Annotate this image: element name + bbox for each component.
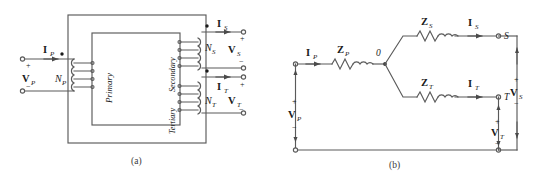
primary-voltage-label: V P + − [22,61,36,91]
svg-text:V: V [228,95,236,106]
tertiary-polarity-dot [205,69,208,72]
impedance-zs-resistor [417,31,438,41]
svg-text:V: V [510,87,518,98]
svg-text:P: P [49,50,55,58]
svg-text:S: S [212,48,216,56]
impedance-zt-resistor [417,92,438,102]
circuit-terminal-s-label: S [504,31,509,41]
svg-text:Z: Z [421,77,428,88]
secondary-minus: − [239,57,244,66]
tertiary-plus: + [240,80,245,89]
primary-minus: − [26,82,31,91]
svg-text:S: S [429,22,433,30]
svg-text:T: T [500,133,505,141]
circuit-vt-plus: + [495,117,500,126]
circuit-node-zero-label: 0 [376,48,381,58]
svg-text:I: I [217,81,221,92]
svg-text:P: P [312,53,318,61]
circuit-vt-minus: − [495,139,500,148]
circuit-vs-minus: − [514,99,519,108]
circuit-it-label: I T [468,78,480,92]
svg-text:S: S [475,23,479,31]
circuit-branch-s [385,34,501,64]
circuit-zt-label: Z T [421,77,434,91]
impedance-zp-resistor [332,59,353,69]
circuit-ip-label: I P [306,47,318,61]
tertiary-current-label: I T [217,81,229,95]
svg-text:Z: Z [337,44,344,55]
svg-text:S: S [224,24,228,32]
svg-text:I: I [217,18,221,29]
impedance-zp-inductor [353,62,373,64]
circuit-vp-plus: + [292,97,297,106]
svg-text:T: T [475,84,480,92]
secondary-polarity-dot [205,24,208,27]
svg-text:S: S [519,93,523,101]
secondary-plus: + [240,34,245,43]
primary-current-label: I P [43,44,55,58]
circuit-vs-plus: + [514,75,519,84]
primary-winding [71,59,94,91]
svg-text:Z: Z [421,16,428,27]
core-label-tertiary: Tertiary [168,108,177,134]
svg-text:T: T [212,101,217,109]
circuit-branch-t [385,64,501,99]
svg-text:I: I [43,44,47,55]
svg-text:I: I [468,78,472,89]
svg-text:V: V [491,127,499,138]
svg-text:V: V [288,109,296,120]
svg-text:I: I [468,17,472,28]
primary-polarity-dot [60,52,63,55]
circuit-vp-minus: − [292,123,297,132]
core-label-secondary: Secondary [168,57,177,92]
tertiary-voltage-label: V T + − [228,80,245,114]
svg-text:I: I [306,47,310,58]
svg-text:P: P [30,79,36,87]
secondary-winding [178,38,201,70]
primary-turns-label: N P [54,73,67,87]
circuit-vs-label: V S + − [510,75,523,108]
tertiary-minus: − [239,105,244,114]
primary-plus: + [26,61,31,70]
tertiary-winding [178,82,201,114]
caption-b: (b) [389,160,400,171]
svg-text:P: P [296,115,302,123]
caption-a: (a) [131,156,142,167]
circuit-vp-label: V P + − [288,97,302,132]
svg-text:T: T [224,87,229,95]
svg-text:P: P [344,50,350,58]
circuit-is-label: I S [468,17,479,31]
circuit-zs-label: Z S [421,16,433,30]
transformer-figure: Primary Secondary Tertiary I P V P + − N… [0,0,549,177]
circuit-vt-label: V T + − [491,117,505,148]
svg-text:V: V [228,44,236,55]
core-label-primary: Primary [104,73,114,104]
svg-text:P: P [61,79,67,87]
secondary-current-label: I S [217,18,228,32]
circuit-zp-label: Z P [337,44,350,58]
svg-text:T: T [429,83,434,91]
secondary-voltage-label: V S + − [228,34,245,66]
